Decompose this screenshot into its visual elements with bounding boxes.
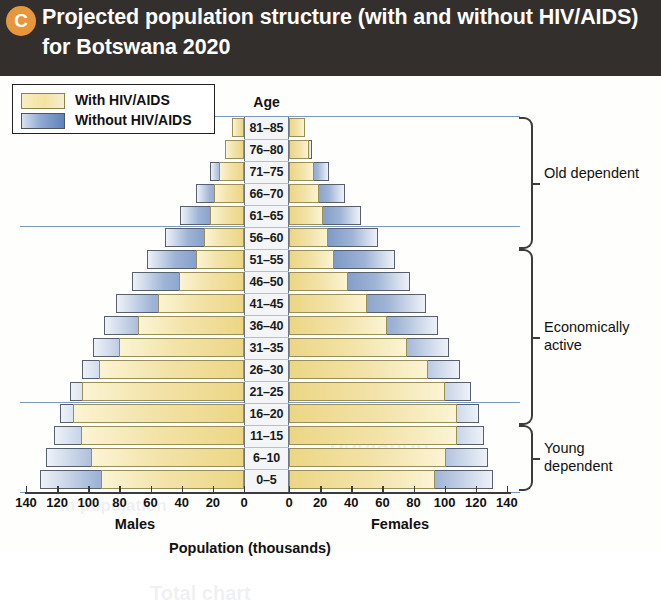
x-tick-right-120-mark: [476, 486, 477, 493]
pyramid-band: [0, 403, 661, 425]
age-label: 36–40: [244, 315, 289, 337]
bar-male-with-hiv: [101, 470, 244, 489]
x-tick-right-140: 140: [490, 495, 524, 510]
x-tick-left-40-mark: [182, 486, 183, 493]
x-axis-line: [25, 492, 511, 494]
population-pyramid-chart: Total chartopulationIn population Age 81…: [0, 76, 661, 552]
age-label: 56–60: [244, 227, 289, 249]
age-label-rule: [244, 227, 289, 228]
x-tick-left-80: 80: [102, 495, 136, 510]
age-label-rule: [244, 139, 289, 140]
age-label-rule: [244, 293, 289, 294]
bar-male-with-hiv: [219, 162, 244, 181]
age-label: 41–45: [244, 293, 289, 315]
bracket-pointer: [531, 337, 540, 339]
pyramid-band: [0, 271, 661, 293]
bar-male-with-hiv: [210, 206, 244, 225]
age-label-rule: [244, 337, 289, 338]
bar-female-with-hiv: [289, 250, 334, 269]
x-tick-right-60-mark: [382, 486, 383, 493]
age-label-rule: [244, 425, 289, 426]
females-label: Females: [345, 516, 455, 532]
bar-female-with-hiv: [289, 140, 309, 159]
bracket-label: Economically active: [544, 318, 654, 354]
age-label-rule: [244, 447, 289, 448]
legend-swatch-without-hiv: [21, 113, 65, 129]
age-label: 61–65: [244, 205, 289, 227]
x-tick-right-20-mark: [320, 486, 321, 493]
x-tick-right-0-mark: [289, 486, 290, 493]
x-tick-left-60: 60: [134, 495, 168, 510]
bar-female-with-hiv: [289, 448, 446, 467]
age-label-rule: [244, 469, 289, 470]
bar-male-with-hiv: [214, 184, 244, 203]
bar-male-with-hiv: [99, 360, 244, 379]
age-label-rule: [244, 183, 289, 184]
males-label: Males: [80, 516, 190, 532]
pyramid-band: [0, 249, 661, 271]
x-tick-left-140: 140: [9, 495, 43, 510]
x-tick-left-60-mark: [151, 486, 152, 493]
page-title: Projected population structure (with and…: [42, 3, 654, 62]
figure-badge: C: [6, 6, 36, 36]
bar-female-with-hiv: [289, 228, 328, 247]
bracket-pointer: [531, 458, 540, 460]
bar-male-with-hiv: [91, 448, 244, 467]
bar-male-with-hiv: [82, 382, 244, 401]
age-label-rule: [244, 381, 289, 382]
age-label: 16–20: [244, 403, 289, 425]
legend-label-without-hiv: Without HIV/AIDS: [75, 112, 192, 128]
ghost-text: Total chart: [150, 582, 251, 604]
age-label-rule: [244, 249, 289, 250]
x-tick-right-0: 0: [272, 495, 306, 510]
x-tick-left-140-mark: [26, 486, 27, 493]
bracket-label: Old dependent: [544, 164, 654, 182]
age-label-rule: [244, 205, 289, 206]
age-label: 46–50: [244, 271, 289, 293]
x-tick-right-100: 100: [428, 495, 462, 510]
bar-female-with-hiv: [289, 382, 445, 401]
pyramid-band: [0, 205, 661, 227]
chart-legend: With HIV/AIDS Without HIV/AIDS: [12, 84, 215, 134]
bar-male-with-hiv: [158, 294, 244, 313]
x-tick-left-40: 40: [165, 495, 199, 510]
bar-male-with-hiv: [179, 272, 244, 291]
age-label: 31–35: [244, 337, 289, 359]
age-label: 11–15: [244, 425, 289, 447]
x-tick-right-60: 60: [365, 495, 399, 510]
x-tick-right-80: 80: [397, 495, 431, 510]
age-label: 71–75: [244, 161, 289, 183]
bar-male-with-hiv: [73, 404, 244, 423]
bar-male-with-hiv: [196, 250, 244, 269]
x-tick-left-100: 100: [71, 495, 105, 510]
age-label: 51–55: [244, 249, 289, 271]
x-tick-left-20: 20: [196, 495, 230, 510]
age-label-rule: [244, 315, 289, 316]
bar-male-with-hiv: [138, 316, 244, 335]
bracket-label: Young dependent: [544, 439, 654, 475]
bracket-pointer: [531, 183, 540, 185]
pyramid-band: [0, 293, 661, 315]
bar-female-with-hiv: [289, 118, 305, 137]
bar-male-with-hiv: [119, 338, 244, 357]
bar-male-with-hiv: [204, 228, 244, 247]
x-tick-left-0: 0: [227, 495, 261, 510]
legend-swatch-with-hiv: [21, 93, 65, 109]
x-tick-left-80-mark: [119, 486, 120, 493]
age-label-rule: [244, 271, 289, 272]
x-tick-right-120: 120: [459, 495, 493, 510]
bar-female-with-hiv: [289, 162, 314, 181]
bar-male-with-hiv: [225, 140, 244, 159]
age-label-rule: [244, 403, 289, 404]
age-label: 26–30: [244, 359, 289, 381]
x-axis-title: Population (thousands): [0, 540, 500, 556]
pyramid-band: [0, 359, 661, 381]
age-label: 66–70: [244, 183, 289, 205]
age-label-rule: [244, 161, 289, 162]
x-tick-left-120-mark: [57, 486, 58, 493]
x-tick-left-100-mark: [88, 486, 89, 493]
bar-female-with-hiv: [289, 338, 407, 357]
x-tick-right-80-mark: [414, 486, 415, 493]
age-label: 81–85: [244, 117, 289, 139]
